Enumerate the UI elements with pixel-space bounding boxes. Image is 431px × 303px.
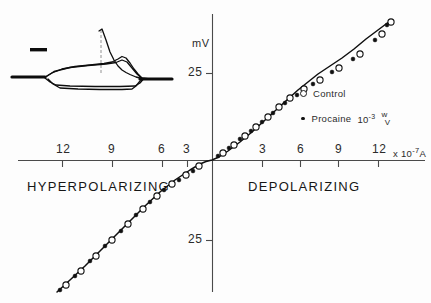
legend: Control Procaine 10-3 w V (300, 88, 388, 126)
x-tick-label-plus-3: 3 (259, 143, 266, 155)
region-label-depolarizing: DEPOLARIZING (248, 180, 360, 193)
x-unit-mantissa: x 10 (393, 148, 412, 159)
figure-container: mV 25 25 12 9 6 3 3 6 9 12 x 10-7A HYPER… (0, 0, 431, 303)
y-tick-label-lower: 25 (188, 233, 203, 245)
legend-item-procaine: Procaine 10-3 w V (300, 111, 388, 126)
inset-recording-traces (12, 29, 172, 90)
x-unit-suffix: A (419, 148, 426, 159)
x-tick-label-minus-3: 3 (183, 143, 190, 155)
trace-response-mid (45, 60, 142, 79)
x-tick-label-minus-6: 6 (158, 143, 165, 155)
legend-item-control: Control (300, 88, 388, 99)
procaine-units-fraction: w V (382, 111, 388, 126)
x-tick-label-plus-6: 6 (297, 143, 304, 155)
y-axis-title: mV (192, 38, 210, 49)
procaine-units-denominator: V (385, 119, 391, 127)
procaine-mantissa: 10 (357, 114, 368, 125)
trace-response-lower-1 (45, 78, 143, 87)
x-tick-label-plus-12: 12 (372, 143, 387, 155)
calibration-bar (30, 48, 47, 51)
legend-label-procaine: Procaine (312, 113, 352, 124)
legend-procaine-concentration: 10-3 (357, 113, 375, 125)
region-label-hyperpolarizing: HYPERPOLARIZING (27, 180, 170, 193)
filled-dot-marker-icon (301, 117, 305, 121)
x-axis-unit: x 10-7A (393, 147, 426, 159)
open-circle-marker-icon (300, 90, 307, 97)
legend-label-control: Control (313, 88, 346, 99)
x-tick-label-minus-12: 12 (56, 143, 71, 155)
trace-response-lower-2 (48, 79, 143, 90)
y-tick-label-upper: 25 (188, 66, 203, 78)
x-tick-label-minus-9: 9 (108, 143, 115, 155)
procaine-exponent: -3 (369, 113, 376, 120)
x-tick-label-plus-9: 9 (335, 143, 342, 155)
